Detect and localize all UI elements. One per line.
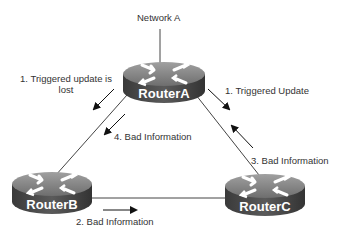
- network-a-label: Network A: [137, 12, 180, 23]
- router-b: RouterB: [12, 172, 92, 214]
- router-c-label: RouterC: [239, 199, 291, 214]
- step4-label: 4. Bad Information: [114, 131, 192, 142]
- step2-label: 2. Bad Information: [76, 216, 154, 227]
- step3-label: 3. Bad Information: [251, 155, 329, 166]
- step1-update-label: 1. Triggered Update: [225, 85, 309, 96]
- step1-lost-line2: lost: [18, 84, 114, 95]
- router-c: RouterC: [225, 174, 305, 216]
- routing-loop-diagram: RouterA RouterB RouterC: [0, 0, 348, 238]
- router-a: RouterA: [123, 62, 205, 103]
- router-a-label: RouterA: [138, 86, 190, 101]
- step1-lost-line1: 1. Triggered update is: [18, 73, 114, 84]
- step1-lost-label: 1. Triggered update is lost: [18, 73, 114, 95]
- router-b-label: RouterB: [26, 197, 77, 212]
